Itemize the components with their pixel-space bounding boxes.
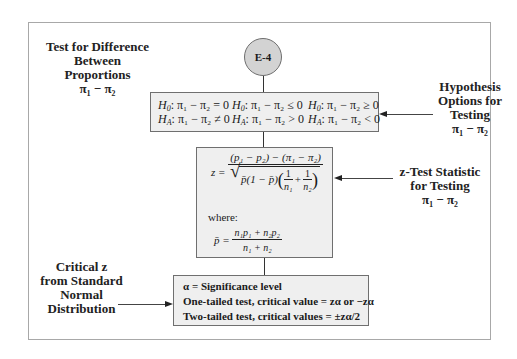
node-circle: E-4 [244, 38, 282, 76]
significance-level-line: α = Significance level [183, 279, 368, 294]
formula-arrowhead-icon [334, 175, 342, 181]
connector-formula-to-critical [264, 258, 265, 275]
critical-label-line-1: Critical z [40, 260, 123, 274]
ha-lower-tailed: HA: π₁ − π₂ < 0 [308, 112, 380, 126]
critical-value-box: α = Significance level One-tailed test, … [173, 275, 369, 326]
h0-lower-tailed: H0: π₁ − π₂ ≤ 0 [232, 98, 308, 112]
connector-hypothesis-to-formula [263, 132, 264, 147]
z-formula: z = (p₁ − p₂) − (π₁ − π₂) p̄(1 − p̄)(1n₁… [211, 151, 323, 192]
hypothesis-label-line-4: π₁ − π₂ [425, 122, 515, 136]
pbar-denominator: n₁ + n₂ [232, 240, 282, 254]
critical-arrow-line [118, 304, 166, 305]
two-tailed-line: Two-tailed test, critical values = ±zα/2 [183, 309, 368, 324]
formula-box: z = (p₁ − p₂) − (π₁ − π₂) p̄(1 − p̄)(1n₁… [196, 147, 333, 258]
critical-label-line-3: Normal [40, 288, 123, 302]
connector-node-to-hypothesis [263, 76, 264, 92]
hypothesis-label-line-3: Testing [425, 108, 515, 122]
ha-two-tailed: HA: π₁ − π₂ ≠ 0 [158, 112, 232, 126]
where-label: where: [208, 211, 238, 223]
alternative-hypotheses-row: HA: π₁ − π₂ ≠ 0HA: π₁ − π₂ > 0HA: π₁ − π… [158, 112, 378, 126]
formula-label: z-Test Statistic for Testing π₁ − π₂ [385, 165, 495, 207]
ha-upper-tailed: HA: π₁ − π₂ > 0 [232, 112, 308, 126]
critical-label-line-2: from Standard [40, 274, 123, 288]
sqrt-term: p̄(1 − p̄)(1n₁+1n₂) [239, 166, 320, 192]
hypothesis-arrowhead-icon [379, 111, 387, 117]
formula-label-line-1: z-Test Statistic [385, 165, 495, 179]
title-label: Test for Difference Between Proportions … [40, 40, 155, 96]
title-line-1: Test for Difference [40, 40, 155, 54]
pbar-numerator: n₁p₁ + n₂p₂ [232, 226, 282, 240]
pbar-formula: p̄ = n₁p₁ + n₂p₂ n₁ + n₂ [214, 226, 282, 254]
hypothesis-label: Hypothesis Options for Testing π₁ − π₂ [425, 80, 515, 136]
hypothesis-label-line-1: Hypothesis [425, 80, 515, 94]
title-line-2: Between Proportions [40, 54, 155, 82]
formula-label-line-3: π₁ − π₂ [385, 193, 495, 207]
z-fraction: (p₁ − p₂) − (π₁ − π₂) p̄(1 − p̄)(1n₁+1n₂… [228, 151, 323, 192]
node-id: E-4 [255, 51, 272, 63]
formula-label-line-2: for Testing [385, 179, 495, 193]
z-numerator: (p₁ − p₂) − (π₁ − π₂) [228, 151, 323, 165]
critical-label-line-4: Distribution [40, 302, 123, 316]
title-line-3: π₁ − π₂ [40, 82, 155, 96]
critical-arrowhead-icon [165, 301, 173, 307]
hypothesis-label-line-2: Options for [425, 94, 515, 108]
h0-two-tailed: H0: π₁ − π₂ = 0 [158, 98, 232, 112]
critical-label: Critical z from Standard Normal Distribu… [40, 260, 123, 316]
h0-upper-tailed: H0: π₁ − π₂ ≥ 0 [308, 98, 379, 112]
one-tailed-line: One-tailed test, critical value = zα or … [183, 294, 368, 309]
z-denominator: p̄(1 − p̄)(1n₁+1n₂) [228, 165, 323, 192]
hypothesis-box: H0: π₁ − π₂ = 0H0: π₁ − π₂ ≤ 0H0: π₁ − π… [150, 92, 379, 132]
null-hypotheses-row: H0: π₁ − π₂ = 0H0: π₁ − π₂ ≤ 0H0: π₁ − π… [158, 98, 378, 112]
z-lhs: z = [211, 166, 225, 178]
